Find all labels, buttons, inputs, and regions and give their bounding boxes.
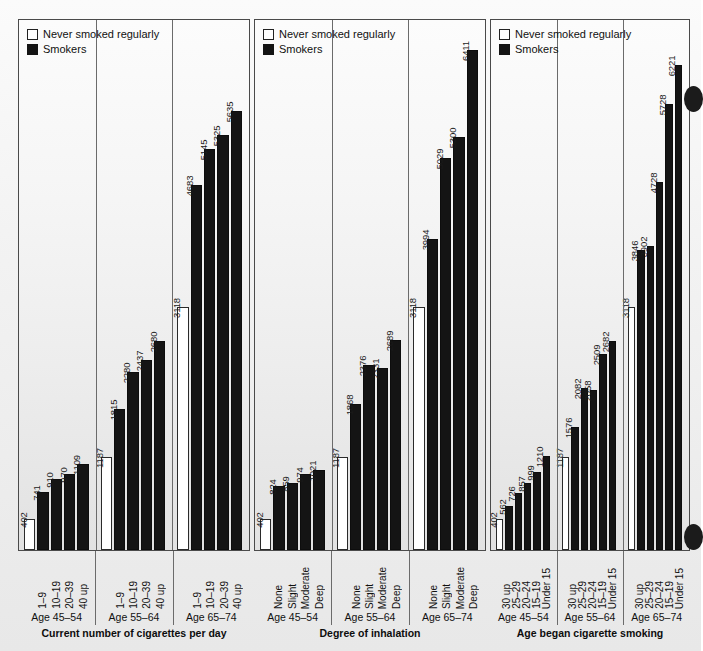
- bar: 857: [524, 483, 531, 550]
- legend-swatch-never-icon: [27, 29, 38, 40]
- group-label: Age 65–74: [623, 609, 690, 625]
- bar: 4728: [656, 182, 663, 551]
- bar: 1187: [562, 457, 569, 550]
- group-label: Age 45–54: [254, 609, 331, 625]
- bar: 2680: [154, 341, 165, 550]
- legend-swatch-never-icon: [499, 29, 510, 40]
- bar: 910: [51, 479, 62, 550]
- group-labels-1: Age 45–54Age 55–64Age 65–74: [18, 609, 250, 625]
- legend-label-smokers: Smokers: [515, 43, 558, 57]
- bar: 1021: [313, 470, 324, 550]
- tick-label: Deep: [468, 553, 481, 609]
- tick-label: Slight: [286, 553, 299, 609]
- bar: 6221: [675, 65, 682, 550]
- bar-value-label: 1021: [309, 461, 319, 482]
- bar: 970: [64, 474, 75, 550]
- group-label: Age 55–64: [331, 609, 408, 625]
- bar: 3846: [637, 250, 644, 550]
- axis-area-3: 30 up25–2920–2415–19Under 1530 up25–2920…: [490, 551, 690, 629]
- legend-label-smokers: Smokers: [43, 43, 86, 57]
- bar: 2058: [590, 390, 597, 550]
- tick-label: 40 up: [154, 553, 167, 609]
- bar-value-label: 5145: [200, 140, 210, 161]
- tick-group: 30 up25–2920–2415–19Under 15: [557, 553, 624, 609]
- bar: 2689: [390, 340, 401, 550]
- bar-value-label: 6221: [668, 56, 678, 77]
- tick-label: [100, 553, 113, 609]
- bar: 1815: [114, 409, 125, 550]
- tick-label: 20–39: [141, 553, 154, 609]
- bar-value-label: 2376: [359, 355, 369, 376]
- legend-2: Never smoked regularly Smokers: [263, 28, 395, 57]
- bar-value-label: 3994: [422, 229, 432, 250]
- bar-value-label: 4683: [186, 176, 196, 197]
- bar-group: 31183994502953006411: [408, 20, 485, 550]
- tick-group: 30 up25–2920–2415–19Under 15: [490, 553, 557, 609]
- tick-label: [178, 553, 191, 609]
- axis-group-divider: [557, 551, 558, 625]
- bar: 5728: [665, 104, 672, 550]
- bar-value-label: 1868: [346, 395, 356, 416]
- bar: 2682: [609, 341, 616, 550]
- bar-value-label: 999: [527, 465, 537, 481]
- tick-label: Moderate: [454, 553, 467, 609]
- tick-label: Deep: [313, 553, 326, 609]
- bar-group: 4025627268579991210: [491, 20, 557, 550]
- tick-label: Deep: [390, 553, 403, 609]
- bar-value-label: 2689: [386, 331, 396, 352]
- tick-group: NoneSlightModerateDeep: [409, 553, 486, 609]
- tick-labels-3: 30 up25–2920–2415–19Under 1530 up25–2920…: [490, 553, 690, 609]
- bar-value-label: 1210: [536, 446, 546, 467]
- legend-swatch-smokers-icon: [263, 44, 274, 55]
- group-label: Age 45–54: [18, 609, 95, 625]
- tick-group: 1–910–1920–3940 up: [18, 553, 95, 609]
- tick-label: 10–19: [50, 553, 63, 609]
- bar-value-label: 5300: [449, 128, 459, 149]
- axis-title-2: Degree of inhalation: [254, 627, 486, 639]
- legend-item-never-smoked: Never smoked regularly: [499, 28, 631, 42]
- bar-value-label: 1576: [565, 418, 575, 439]
- bar: 2280: [127, 372, 138, 550]
- bar-value-label: 974: [296, 467, 306, 483]
- axis-title-3: Age began cigarette smoking: [490, 627, 690, 639]
- tick-label: 20–39: [63, 553, 76, 609]
- bar-value-label: 2058: [584, 380, 594, 401]
- bar-value-label: 2280: [123, 363, 133, 384]
- bars-3: 4025627268579991210118715762082205825092…: [491, 20, 689, 550]
- tick-labels-2: NoneSlightModerateDeepNoneSlightModerate…: [254, 553, 486, 609]
- bar-value-label: 3118: [409, 298, 419, 318]
- legend-label-never: Never smoked regularly: [515, 28, 631, 42]
- tick-label: Moderate: [299, 553, 312, 609]
- tick-label: 40 up: [77, 553, 90, 609]
- group-label: Age 65–74: [409, 609, 486, 625]
- bar: 824: [273, 486, 284, 550]
- legend-item-smokers: Smokers: [499, 43, 631, 57]
- legend-item-smokers: Smokers: [263, 43, 395, 57]
- tick-label: Moderate: [377, 553, 390, 609]
- tick-label: [23, 553, 36, 609]
- bar-value-label: 3902: [640, 237, 650, 258]
- bar-value-label: 402: [256, 512, 266, 528]
- tick-label: Under 15: [608, 553, 618, 609]
- binder-hole-top-icon: [684, 86, 703, 112]
- plot-area-2: Never smoked regularly Smokers 402824859…: [254, 19, 486, 551]
- bar-value-label: 824: [269, 479, 279, 495]
- legend-swatch-never-icon: [263, 29, 274, 40]
- group-label: Age 45–54: [490, 609, 557, 625]
- tick-label: 40 up: [232, 553, 245, 609]
- bar-group: 11871868237623312689: [332, 20, 409, 550]
- bar-value-label: 2331: [372, 359, 382, 380]
- axis-area-2: NoneSlightModerateDeepNoneSlightModerate…: [254, 551, 486, 629]
- tick-label: 10–19: [127, 553, 140, 609]
- bar: 5325: [217, 135, 228, 550]
- bar: 726: [515, 493, 522, 550]
- panel-degree-of-inhalation: Never smoked regularly Smokers 402824859…: [254, 0, 486, 629]
- bar: 562: [505, 506, 512, 550]
- axis-group-divider: [173, 551, 174, 625]
- bar-value-label: 1187: [332, 448, 342, 468]
- bar: 1868: [350, 404, 361, 550]
- panel-cigarettes-per-day: Never smoked regularly Smokers 402741910…: [18, 0, 250, 629]
- tick-group: 30 up25–2920–2415–19Under 15: [623, 553, 690, 609]
- group-separator: [96, 20, 97, 550]
